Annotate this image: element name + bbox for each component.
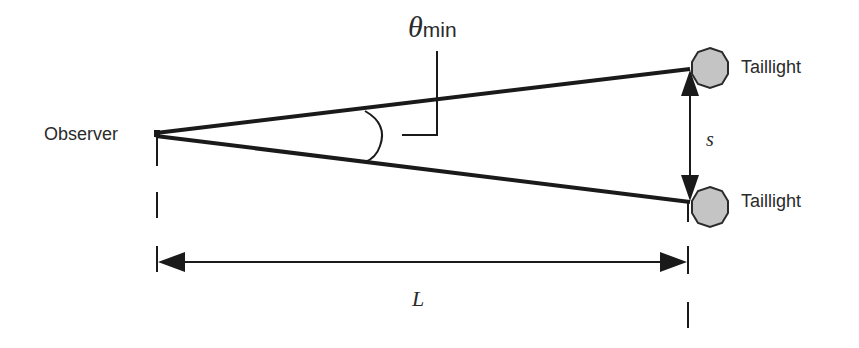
distance-label: L xyxy=(411,286,424,311)
taillight-top-label: Taillight xyxy=(741,57,801,77)
theta-leader-line xyxy=(402,51,437,135)
separation-label: s xyxy=(706,128,714,150)
angle-arc xyxy=(365,111,382,162)
taillight-bottom-label: Taillight xyxy=(741,191,801,211)
distance-arrowhead-left xyxy=(158,252,185,272)
theta-label: θmin xyxy=(408,10,457,43)
sight-line-bottom xyxy=(156,136,690,202)
sight-line-top xyxy=(156,69,690,133)
distance-arrowhead-right xyxy=(660,252,687,272)
diagram-canvas: θmin Observer s Taillight Taillight L xyxy=(0,0,859,348)
observer-label: Observer xyxy=(44,124,118,144)
observer-point xyxy=(154,130,160,137)
taillight-top-icon xyxy=(692,48,728,88)
taillight-bottom-icon xyxy=(692,187,728,227)
